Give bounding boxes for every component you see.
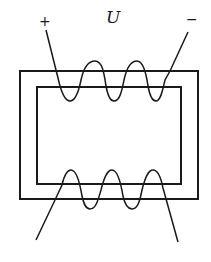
core-inner-edge — [37, 87, 181, 184]
core-outer-edge — [20, 71, 198, 199]
negative-terminal-label: − — [186, 12, 198, 26]
voltage-label: U — [106, 9, 120, 26]
bottom-winding — [36, 170, 178, 242]
top-winding — [46, 30, 188, 101]
transformer-diagram — [0, 0, 211, 262]
positive-terminal-label: + — [39, 14, 51, 28]
